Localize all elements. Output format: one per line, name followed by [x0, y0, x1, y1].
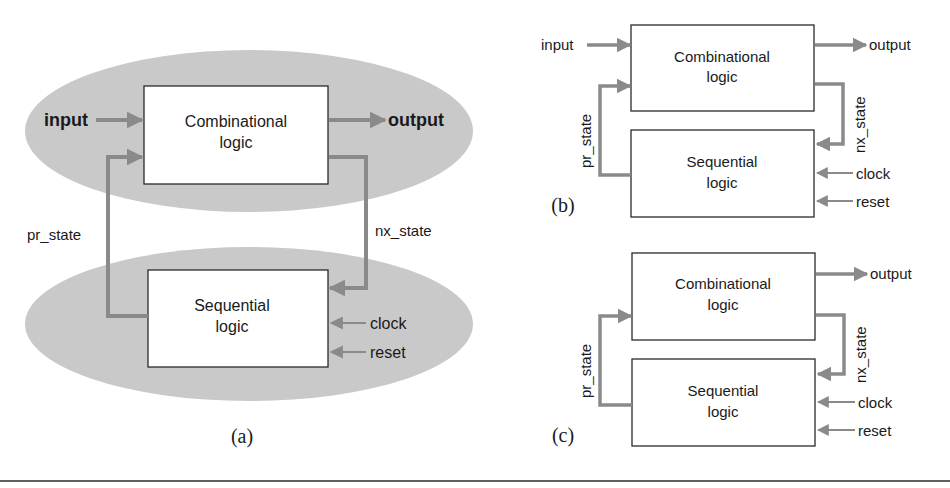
- diagram-canvas: Combinational logic Sequential logic inp…: [0, 0, 950, 488]
- pr-state-feedback-arrow: [600, 316, 632, 405]
- output-label: output: [869, 36, 912, 53]
- sequential-logic-label-line2: logic: [707, 174, 738, 191]
- panel-c: Combinational logic Sequential logic out…: [552, 253, 913, 447]
- clock-label: clock: [856, 165, 891, 182]
- pr-state-label: pr_state: [27, 226, 81, 243]
- combinational-logic-label-line2: logic: [707, 68, 738, 85]
- panel-a: Combinational logic Sequential logic inp…: [25, 50, 473, 448]
- reset-label: reset: [856, 193, 890, 210]
- combinational-logic-label-line1: Combinational: [185, 113, 287, 130]
- nx-state-arrow: [816, 315, 844, 374]
- reset-label: reset: [370, 344, 406, 361]
- reset-label: reset: [858, 422, 892, 439]
- nx-state-label: nx_state: [852, 326, 869, 383]
- pr-state-label: pr_state: [577, 114, 594, 168]
- sequential-logic-label-line1: Sequential: [194, 297, 270, 314]
- output-label: output: [870, 265, 913, 282]
- combinational-logic-label-line2: logic: [220, 134, 253, 151]
- sequential-logic-label-line1: Sequential: [687, 153, 758, 170]
- sequential-logic-label-line1: Sequential: [688, 382, 759, 399]
- pr-state-label: pr_state: [577, 344, 594, 398]
- combinational-logic-label-line1: Combinational: [675, 275, 771, 292]
- panel-b-caption: (b): [551, 194, 574, 217]
- input-label: input: [541, 36, 574, 53]
- combinational-logic-label-line1: Combinational: [674, 48, 770, 65]
- clock-label: clock: [858, 394, 893, 411]
- panel-a-caption: (a): [231, 425, 253, 448]
- output-label: output: [388, 110, 444, 130]
- nx-state-label: nx_state: [851, 96, 868, 153]
- sequential-logic-label-line2: logic: [216, 318, 249, 335]
- nx-state-label: nx_state: [375, 222, 432, 239]
- panel-c-caption: (c): [552, 424, 574, 447]
- nx-state-arrow: [815, 84, 843, 144]
- combinational-logic-label-line2: logic: [708, 296, 739, 313]
- panel-b: Combinational logic Sequential logic inp…: [541, 25, 912, 217]
- clock-label: clock: [370, 315, 407, 332]
- input-label: input: [44, 110, 88, 130]
- sequential-logic-label-line2: logic: [708, 403, 739, 420]
- pr-state-feedback-arrow: [600, 86, 631, 175]
